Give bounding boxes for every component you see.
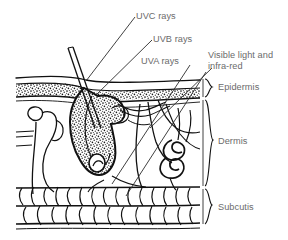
label-dermis: Dermis [218, 136, 247, 147]
label-uva-rays: UVA rays [141, 56, 179, 67]
skin-cross-section-figure: UVC rays UVB rays UVA rays Visible light… [0, 0, 288, 240]
label-uvc-rays: UVC rays [136, 11, 176, 22]
sweat-gland [160, 108, 191, 190]
layer-braces [203, 79, 213, 224]
uvb-ray-line [96, 40, 152, 95]
label-epidermis: Epidermis [218, 82, 259, 93]
uvc-ray-line [86, 17, 135, 81]
label-subcutis: Subcutis [218, 202, 254, 213]
dermis-brace [205, 100, 213, 186]
label-uvb-rays: UVB rays [153, 34, 192, 45]
subcutis-layer [16, 187, 200, 229]
nerve-ending [16, 107, 63, 194]
subcutis-brace [205, 189, 212, 224]
hair-follicle [70, 88, 128, 175]
epidermis-brace [205, 79, 212, 97]
label-visible-light-infrared: Visible light and infra-red [208, 50, 273, 72]
